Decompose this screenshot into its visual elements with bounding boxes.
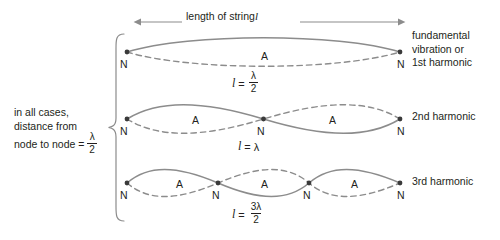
length-of-string-label: length of stringl (186, 10, 258, 24)
node-label: N (397, 189, 405, 201)
second-harmonic-equation-operator: = (244, 141, 250, 153)
length-of-string-text: length of string (186, 10, 255, 22)
third-harmonic-equation-lhs: l (232, 207, 235, 222)
node-spacing-fraction: λ 2 (87, 132, 97, 155)
third-harmonic-label-line1: 3rd harmonic (412, 175, 498, 189)
first-harmonic-label: fundamental vibration or 1st harmonic (412, 29, 498, 70)
third-harmonic-equation-fraction: 3λ 2 (249, 202, 264, 225)
node-label: N (212, 189, 220, 201)
first-harmonic-label-line2: vibration or (412, 43, 498, 57)
node-label: N (257, 125, 265, 137)
first-harmonic-label-line1: fundamental (412, 29, 498, 43)
third-harmonic-equation-numerator: 3λ (249, 202, 264, 213)
node-label: N (397, 125, 405, 137)
node-spacing-note-line1: in all cases, (14, 106, 110, 120)
first-harmonic-equation-numerator: λ (249, 71, 258, 82)
first-harmonic-label-line3: 1st harmonic (412, 56, 498, 70)
antinode-label: A (329, 114, 336, 126)
third-harmonic-equation-denominator: 2 (251, 213, 261, 225)
first-harmonic-equation-lhs: l (232, 76, 235, 91)
second-harmonic-equation-lhs: l (238, 139, 241, 154)
second-harmonic-equation-rhs: λ (254, 141, 260, 153)
node-label: N (397, 58, 405, 70)
second-harmonic-equation: l = λ (238, 139, 259, 154)
node-label: N (120, 58, 128, 70)
antinode-label: A (351, 178, 358, 190)
node-spacing-note-line3-text: node to node = (14, 138, 84, 152)
node-label: N (303, 189, 311, 201)
first-harmonic-equation-fraction: λ 2 (249, 71, 259, 94)
second-harmonic-label-line1: 2nd harmonic (412, 110, 498, 124)
length-of-string-symbol: l (255, 10, 258, 22)
node-label: N (120, 125, 128, 137)
node-spacing-fraction-denominator: 2 (87, 143, 97, 155)
node-spacing-note-line2: distance from (14, 120, 110, 134)
antinode-label: A (261, 178, 268, 190)
node-spacing-note: in all cases, distance from node to node… (14, 106, 110, 156)
second-harmonic-label: 2nd harmonic (412, 110, 498, 124)
third-harmonic-label: 3rd harmonic (412, 175, 498, 189)
first-harmonic-equation-operator: = (238, 78, 244, 90)
antinode-label: A (261, 50, 268, 62)
third-harmonic-equation-operator: = (238, 209, 244, 221)
node-label: N (120, 189, 128, 201)
antinode-label: A (192, 114, 199, 126)
antinode-label: A (176, 178, 183, 190)
third-harmonic-equation: l = 3λ 2 (232, 203, 264, 226)
standing-wave-harmonics-diagram: length of stringl in all cases, distance… (0, 0, 500, 240)
node-spacing-fraction-numerator: λ (88, 132, 97, 143)
first-harmonic-equation-denominator: 2 (249, 82, 259, 94)
node-spacing-note-line3: node to node = λ 2 (14, 133, 98, 156)
first-harmonic-equation: l = λ 2 (232, 72, 259, 95)
